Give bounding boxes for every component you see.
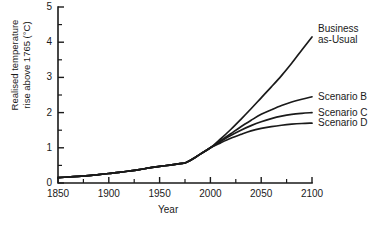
- x-tick-label: 2050: [241, 189, 281, 199]
- y-axis-title-line-2: rise above 1765 (°C): [21, 0, 33, 135]
- y-tick-label: 3: [32, 72, 52, 82]
- y-axis-title: Realised temperature rise above 1765 (°C…: [9, 0, 35, 135]
- series-label-2: Scenario B: [318, 91, 367, 103]
- x-tick-label: 2100: [292, 189, 332, 199]
- chart-series: [58, 37, 312, 178]
- series-label-line-1: Scenario B: [318, 91, 367, 102]
- series-label-line-1: Scenario C: [318, 107, 367, 118]
- x-tick-label: 1900: [89, 189, 129, 199]
- series-label-line-2: as-Usual: [318, 34, 359, 46]
- series-label-line-1: Scenario D: [318, 117, 367, 128]
- series-line-3: [58, 113, 312, 178]
- y-axis-title-line-1: Realised temperature: [9, 0, 21, 135]
- y-tick-label: 2: [32, 108, 52, 118]
- figure: 012345 185019001950200020502100 Realised…: [0, 0, 384, 236]
- series-label-1: Businessas-Usual: [318, 23, 359, 46]
- series-label-line-1: Business: [318, 23, 359, 34]
- y-tick-label: 0: [32, 178, 52, 188]
- x-tick-label: 2000: [190, 189, 230, 199]
- cropped-caption-text: [8, 228, 238, 234]
- series-line-4: [58, 123, 312, 178]
- series-label-4: Scenario D: [318, 117, 367, 129]
- series-line-1: [58, 37, 312, 178]
- x-tick-label: 1950: [140, 189, 180, 199]
- x-axis-title: Year: [158, 204, 178, 215]
- y-tick-label: 4: [32, 37, 52, 47]
- x-tick-label: 1850: [38, 189, 78, 199]
- y-tick-label: 5: [32, 2, 52, 12]
- chart-ticks: [58, 7, 312, 183]
- series-line-2: [58, 97, 312, 178]
- chart-axes: [58, 7, 312, 183]
- y-tick-label: 1: [32, 143, 52, 153]
